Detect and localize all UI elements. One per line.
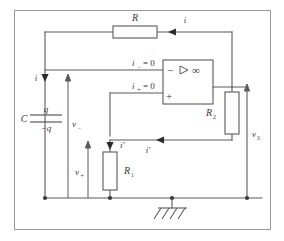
svg-text:1: 1 [131, 172, 134, 178]
svg-text:= 0: = 0 [143, 58, 155, 68]
svg-text:+: + [80, 173, 84, 179]
junction-dot-r1-bottom [108, 196, 112, 200]
svg-text:−: − [77, 125, 81, 131]
label-voltage-plus: v + [75, 167, 84, 179]
label-opamp-noninverting: + [166, 90, 172, 102]
svg-text:2: 2 [213, 114, 216, 120]
resistor-r1-body [103, 152, 117, 190]
label-i-prime-mid: i′ [146, 145, 152, 155]
label-voltage-source: v S [252, 129, 260, 141]
resistor-r2-body [225, 92, 239, 134]
junction-dot-ground [170, 196, 174, 200]
label-noninverting-input-current: i + = 0 [132, 81, 155, 93]
arrowhead-i-prime-mid [156, 136, 164, 143]
label-capacitor-charge-bottom: −q [41, 123, 52, 133]
voltage-plus-arrowhead [85, 141, 90, 148]
label-capacitor-charge-top: q [44, 104, 49, 114]
svg-text:R: R [205, 107, 212, 118]
svg-text:i: i [132, 81, 135, 91]
voltage-source-arrowhead [244, 84, 249, 91]
svg-text:i: i [132, 58, 135, 68]
label-resistor-r2: R 2 [205, 107, 216, 120]
circuit-diagram-figure: R i i i − = 0 i + = 0 − + ∞ C q −q [0, 0, 284, 241]
label-resistor-r1: R 1 [123, 165, 134, 178]
svg-text:+: + [137, 87, 141, 93]
label-voltage-minus: v − [72, 119, 81, 131]
junction-dot-cap-bottom [43, 196, 47, 200]
label-current-feedback: i [184, 15, 187, 25]
svg-text:S: S [257, 135, 260, 141]
arrowhead-input-current [41, 74, 48, 82]
circuit-schematic-svg: R i i i − = 0 i + = 0 − + ∞ C q −q [0, 0, 284, 241]
label-resistor-r: R [131, 12, 138, 23]
svg-text:−: − [137, 64, 141, 70]
ground-icon [154, 208, 187, 219]
current-arrowheads [41, 28, 176, 150]
label-opamp-inverting: − [167, 64, 173, 76]
svg-text:v: v [75, 167, 79, 177]
svg-text:R: R [123, 165, 130, 176]
label-inverting-input-current: i − = 0 [132, 58, 155, 70]
label-i-prime-top: i′ [120, 140, 126, 150]
label-current-input: i [35, 73, 38, 83]
resistor-r-body [113, 26, 157, 38]
label-opamp-gain: ∞ [192, 64, 200, 76]
arrowhead-feedback-current [168, 28, 176, 35]
arrowhead-i-prime-top [106, 142, 113, 150]
svg-text:v: v [72, 119, 76, 129]
svg-text:= 0: = 0 [143, 81, 155, 91]
junction-dot-vs-bottom [245, 196, 249, 200]
svg-text:v: v [252, 129, 256, 139]
voltage-minus-arrowhead [65, 74, 70, 81]
label-capacitor-c: C [21, 113, 28, 124]
